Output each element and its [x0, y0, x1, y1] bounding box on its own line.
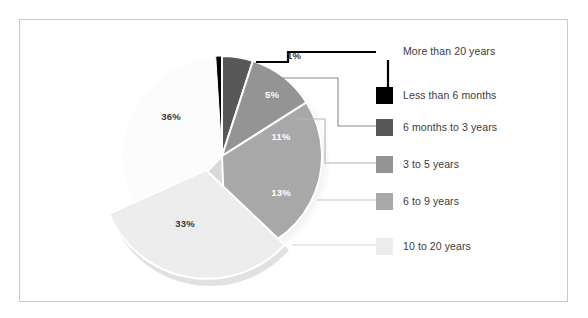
slice-value-less-than-6-months: 1%	[287, 50, 301, 61]
legend-item-10-to-20-years[interactable]: 10 to 20 years	[376, 237, 471, 255]
legend-item-less-than-6-months[interactable]: Less than 6 months	[376, 86, 496, 104]
legend-label-more-than-20-years: More than 20 years	[403, 45, 495, 57]
legend-swatch-6-to-9-years-icon	[376, 193, 393, 210]
legend-item-6-months-to-3-years[interactable]: 6 months to 3 years	[376, 118, 497, 136]
legend-label-6-months-to-3-years: 6 months to 3 years	[403, 121, 497, 133]
legend-item-6-to-9-years[interactable]: 6 to 9 years	[376, 192, 459, 210]
legend-item-3-to-5-years[interactable]: 3 to 5 years	[376, 155, 459, 173]
slice-value-6-to-9-years: 13%	[271, 187, 291, 198]
legend-label-3-to-5-years: 3 to 5 years	[403, 158, 459, 170]
slice-value-6-months-to-3-years: 5%	[265, 89, 279, 100]
slice-value-more-than-20-years: 36%	[161, 111, 181, 122]
legend-item-more-than-20-years[interactable]: More than 20 years	[376, 42, 495, 60]
pie-chart-figure: 36% 1% 5% 11% 13% 33% More than 20 years…	[0, 0, 588, 318]
legend-label-10-to-20-years: 10 to 20 years	[403, 240, 471, 252]
legend-swatch-more-than-20-years-icon	[376, 43, 393, 60]
slice-value-3-to-5-years: 11%	[271, 131, 290, 142]
slice-value-10-to-20-years: 33%	[175, 218, 195, 229]
chart-legend: More than 20 years Less than 6 months 6 …	[376, 36, 566, 276]
legend-swatch-10-to-20-years-icon	[376, 238, 393, 255]
legend-swatch-6-months-to-3-years-icon	[376, 119, 393, 136]
legend-label-less-than-6-months: Less than 6 months	[403, 89, 496, 101]
legend-swatch-less-than-6-months-icon	[376, 87, 393, 104]
legend-label-6-to-9-years: 6 to 9 years	[403, 195, 459, 207]
legend-swatch-3-to-5-years-icon	[376, 156, 393, 173]
